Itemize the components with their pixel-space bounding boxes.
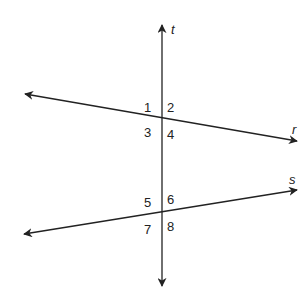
angle-1: 1	[144, 100, 151, 115]
angle-3: 3	[144, 125, 151, 140]
angle-5: 5	[144, 195, 151, 210]
line-r	[25, 94, 297, 141]
angle-6: 6	[167, 192, 174, 207]
label-t: t	[171, 22, 176, 37]
angle-7: 7	[144, 222, 151, 237]
diagram-svg: t r s 1 2 3 4 5 6 7 8	[0, 0, 306, 289]
diagram-canvas: t r s 1 2 3 4 5 6 7 8	[0, 0, 306, 289]
angle-2: 2	[167, 100, 174, 115]
angle-4: 4	[167, 127, 174, 142]
line-s	[24, 190, 297, 234]
angle-8: 8	[167, 219, 174, 234]
label-r: r	[292, 122, 297, 137]
label-s: s	[289, 172, 296, 187]
